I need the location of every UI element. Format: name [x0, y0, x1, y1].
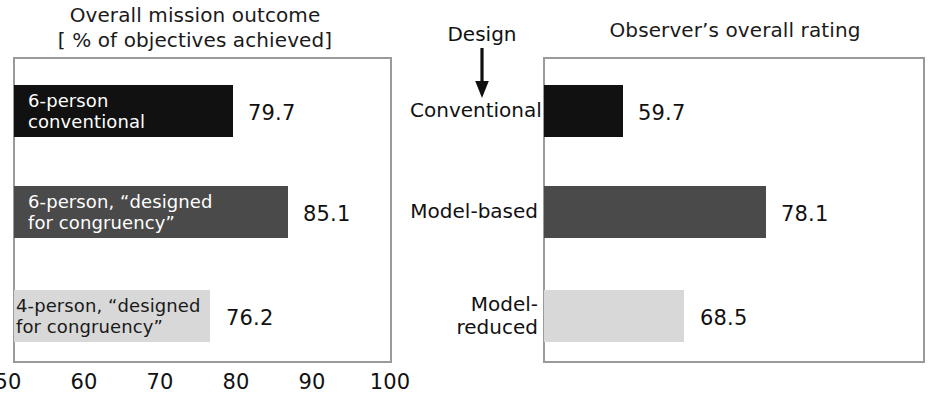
plot-area-right: 59.7 78.1 68.5	[543, 57, 925, 363]
x-tick-left-2: 70	[146, 370, 173, 394]
chart-title-left: Overall mission outcome[ % of objectives…	[20, 3, 370, 53]
bar-left-2-label: 4-person, “designed for congruency”	[16, 295, 201, 337]
bar-right-1[interactable]	[544, 186, 766, 238]
x-tick-left-0: 50	[0, 370, 22, 394]
cat-label-right-1: Model-based	[410, 200, 538, 223]
chart-title-right-line1: Observer’s overall rating	[610, 18, 861, 42]
bar-left-2-value: 76.2	[226, 306, 274, 330]
bar-right-2[interactable]	[544, 290, 684, 342]
x-tick-left-4: 90	[298, 370, 325, 394]
bar-left-1-value: 85.1	[303, 202, 351, 226]
chart-panel-left: Overall mission outcome[ % of objectives…	[0, 0, 470, 416]
bar-right-2-value: 68.5	[700, 306, 748, 330]
bar-left-1-label: 6-person, “designed for congruency”	[28, 191, 213, 233]
bar-left-2[interactable]: 4-person, “designed for congruency”	[14, 290, 210, 342]
bar-right-0-value: 59.7	[638, 101, 686, 125]
bar-right-0[interactable]	[544, 85, 623, 137]
bar-left-0-value: 79.7	[248, 101, 296, 125]
chart-panel-right: Observer’s overall rating Conventional M…	[470, 0, 940, 416]
cat-label-right-0: Conventional	[410, 99, 538, 122]
plot-area-left: 6-person conventional 79.7 6-person, “de…	[13, 57, 392, 363]
x-tick-left-3: 80	[222, 370, 249, 394]
chart-title-left-line2: [ % of objectives achieved]	[58, 28, 332, 52]
chart-title-left-line1: Overall mission outcome	[70, 3, 321, 27]
cat-label-right-2: Model- reduced	[410, 293, 538, 339]
x-tick-left-1: 60	[70, 370, 97, 394]
bar-left-1[interactable]: 6-person, “designed for congruency”	[14, 186, 288, 238]
x-tick-left-5: 100	[370, 370, 411, 394]
bar-left-0-label: 6-person conventional	[28, 90, 145, 132]
chart-title-right: Observer’s overall rating	[565, 18, 905, 43]
bar-left-0[interactable]: 6-person conventional	[14, 85, 233, 137]
bar-right-1-value: 78.1	[781, 202, 829, 226]
x-axis-left: 50 60 70 80 90 100	[0, 370, 470, 410]
